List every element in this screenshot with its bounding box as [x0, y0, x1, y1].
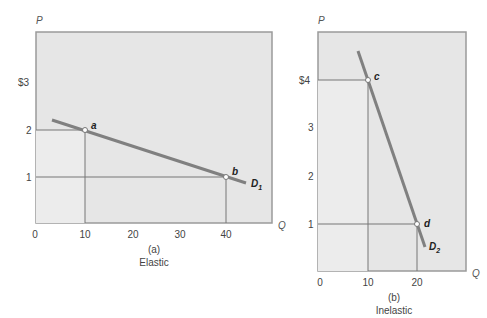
panel-b-revenue-rect-c — [318, 80, 368, 271]
panel-b-y-axis-label: P — [318, 15, 325, 26]
point-a-marker — [83, 128, 88, 133]
panel-a-x-axis-label: Q — [278, 220, 286, 231]
panel-b-y-tick-4: $4 — [299, 75, 311, 86]
panel-b-y-tick-2: 2 — [308, 171, 314, 182]
panel-a-x-tick-30: 30 — [174, 229, 186, 240]
point-c-marker — [366, 78, 371, 83]
point-d-marker — [415, 222, 420, 227]
panel-a-y-axis-label: P — [36, 15, 43, 26]
panel-a-x-tick-20: 20 — [127, 229, 139, 240]
panel-b-x-tick-0: 0 — [317, 277, 323, 288]
panel-b-x-tick-10: 10 — [362, 277, 374, 288]
panel-a-x-tick-0: 0 — [32, 229, 38, 240]
panel-b: c d D2 P Q $4 3 2 1 0 10 20 (b) Inelasti… — [299, 15, 480, 316]
panel-b-x-tick-20: 20 — [411, 277, 423, 288]
panel-b-label: (b) — [388, 292, 400, 303]
panel-a-label: (a) — [148, 244, 160, 255]
point-c-label: c — [374, 71, 380, 82]
panel-a-y-tick-3: $3 — [18, 77, 30, 88]
panel-a: a b D1 P Q $3 2 1 0 10 20 30 40 (a) Elas… — [18, 15, 286, 268]
panel-a-y-tick-2: 2 — [26, 125, 32, 136]
elasticity-figure: a b D1 P Q $3 2 1 0 10 20 30 40 (a) Elas… — [0, 0, 487, 318]
panel-a-y-tick-1: 1 — [26, 172, 32, 183]
panel-b-x-axis-label: Q — [472, 268, 480, 279]
panel-b-title: Inelastic — [376, 305, 413, 316]
point-a-label: a — [91, 120, 97, 131]
panel-b-y-tick-1: 1 — [308, 219, 314, 230]
point-b-label: b — [232, 166, 238, 177]
panel-a-x-tick-40: 40 — [220, 229, 232, 240]
panel-b-y-tick-3: 3 — [308, 122, 314, 133]
panel-a-x-tick-10: 10 — [79, 229, 91, 240]
panel-a-title: Elastic — [139, 257, 168, 268]
point-d-label: d — [424, 218, 431, 229]
point-b-marker — [224, 175, 229, 180]
